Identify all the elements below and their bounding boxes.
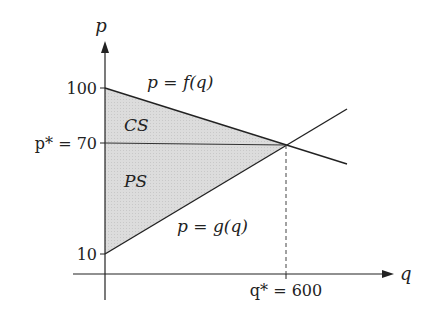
tick-100: 100: [66, 79, 97, 98]
y-axis-label: p: [95, 15, 107, 36]
cs-label: CS: [124, 115, 149, 135]
surplus-diagram: p q 100 p* = 70 10 q* = 600 p = f(q) p =…: [0, 0, 433, 314]
ps-label: PS: [123, 171, 147, 191]
y-axis-arrow-icon: [101, 41, 109, 53]
x-axis-arrow-icon: [382, 270, 394, 278]
x-axis-label: q: [400, 263, 412, 284]
tick-p-star: p* = 70: [35, 134, 97, 153]
tick-10: 10: [77, 245, 97, 264]
supply-label: p = g(q): [177, 216, 248, 236]
tick-q-star: q* = 600: [250, 281, 322, 300]
demand-label: p = f(q): [147, 72, 213, 92]
